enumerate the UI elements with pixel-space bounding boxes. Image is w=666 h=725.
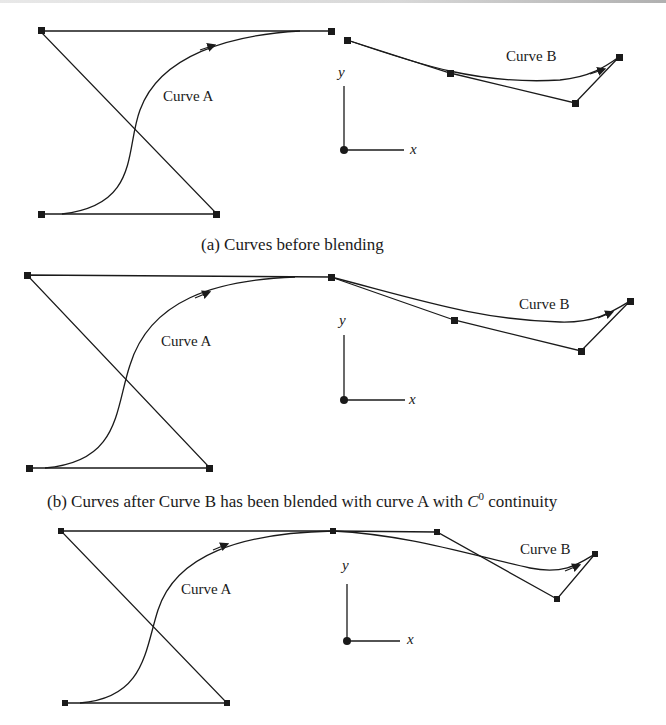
y-axis-label: y <box>342 557 349 574</box>
curve-b-label: Curve B <box>519 296 569 313</box>
curve-a <box>45 277 295 468</box>
origin-dot <box>340 146 348 154</box>
curve-b <box>331 277 630 322</box>
control-points <box>58 528 598 706</box>
caption-math-c: C <box>467 492 478 511</box>
curve-b-control-polygon <box>347 40 619 103</box>
caption-suffix: continuity <box>484 492 557 511</box>
x-axis-label: x <box>409 391 416 408</box>
curve-b <box>347 40 619 81</box>
curve-a-control-polygon <box>61 531 333 703</box>
curve-a <box>62 31 300 214</box>
origin-dot <box>340 396 348 404</box>
x-axis-label: x <box>410 141 417 158</box>
curve-a-label: Curve A <box>163 88 213 105</box>
curve-a-label: Curve A <box>161 333 211 350</box>
x-axis-label: x <box>407 631 414 648</box>
y-axis-label: y <box>338 64 345 81</box>
panel-a-caption: (a) Curves before blending <box>201 235 384 255</box>
origin-dot <box>343 637 351 645</box>
curve-b-label: Curve B <box>506 48 556 65</box>
curve-a <box>80 531 333 703</box>
panel-c <box>58 528 598 706</box>
caption-text: (b) Curves after Curve B has been blende… <box>47 492 467 511</box>
curve-a-label: Curve A <box>181 581 231 598</box>
panel-b-caption: (b) Curves after Curve B has been blende… <box>47 490 557 512</box>
curve-b-label: Curve B <box>520 541 570 558</box>
curve-b-direction-arrow-icon <box>598 313 610 318</box>
bezier-blending-figure <box>0 0 666 725</box>
y-axis-label: y <box>339 312 346 329</box>
